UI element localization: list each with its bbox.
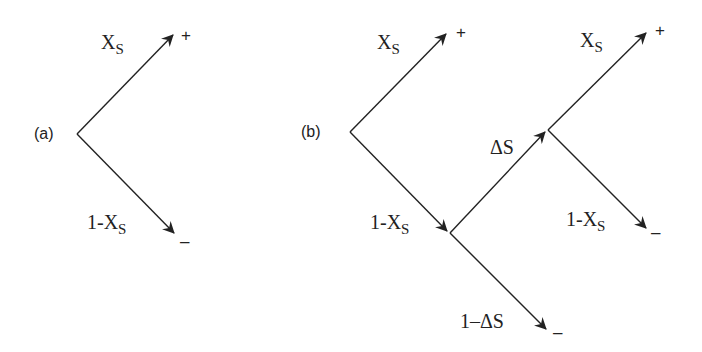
branch-label-xs: XS [377,32,400,57]
branch-label-1-minus-delta-s: 1–ΔS [460,311,504,331]
edge-a-up [77,35,173,134]
outcome-minus: – [651,224,660,241]
panel-label-b: (b) [301,124,321,140]
branch-label-xs: XS [101,32,124,57]
outcome-plus: + [456,24,466,41]
outcome-minus: – [180,233,189,250]
outcome-plus: + [655,22,665,39]
probability-tree-figure: (a) XS + 1-XS – (b) XS + 1-XS ΔS 1–ΔS – … [0,0,702,352]
branch-label-1-xs: 1-XS [370,212,409,237]
panel-label-a: (a) [34,126,54,142]
branch-label-xs: XS [580,30,603,55]
branch-label-1-xs: 1-XS [87,212,126,237]
branch-label-1-xs: 1-XS [566,209,605,234]
outcome-minus: – [553,324,562,341]
outcome-plus: + [181,27,191,44]
branch-label-delta-s: ΔS [490,137,514,157]
